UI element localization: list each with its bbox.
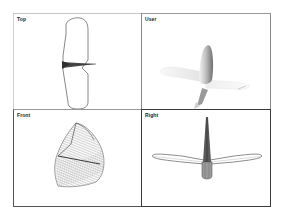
viewport-canvas-front[interactable] bbox=[14, 110, 141, 206]
airplane-rear-view-icon bbox=[142, 110, 271, 207]
airplane-wireframe-mesh-icon bbox=[14, 110, 142, 207]
viewport-canvas-top[interactable] bbox=[14, 14, 141, 109]
viewport-right[interactable]: Right bbox=[141, 109, 271, 207]
viewport-canvas-right[interactable] bbox=[142, 110, 270, 206]
viewport-canvas-user[interactable] bbox=[142, 14, 270, 109]
airplane-top-view-icon bbox=[14, 14, 142, 110]
airplane-shaded-view-icon bbox=[142, 14, 271, 110]
viewport-front[interactable]: Front bbox=[13, 109, 142, 207]
viewport-user[interactable]: User bbox=[141, 13, 271, 110]
viewport-top[interactable]: Top bbox=[13, 13, 142, 110]
viewport-grid: Top User bbox=[13, 13, 271, 207]
